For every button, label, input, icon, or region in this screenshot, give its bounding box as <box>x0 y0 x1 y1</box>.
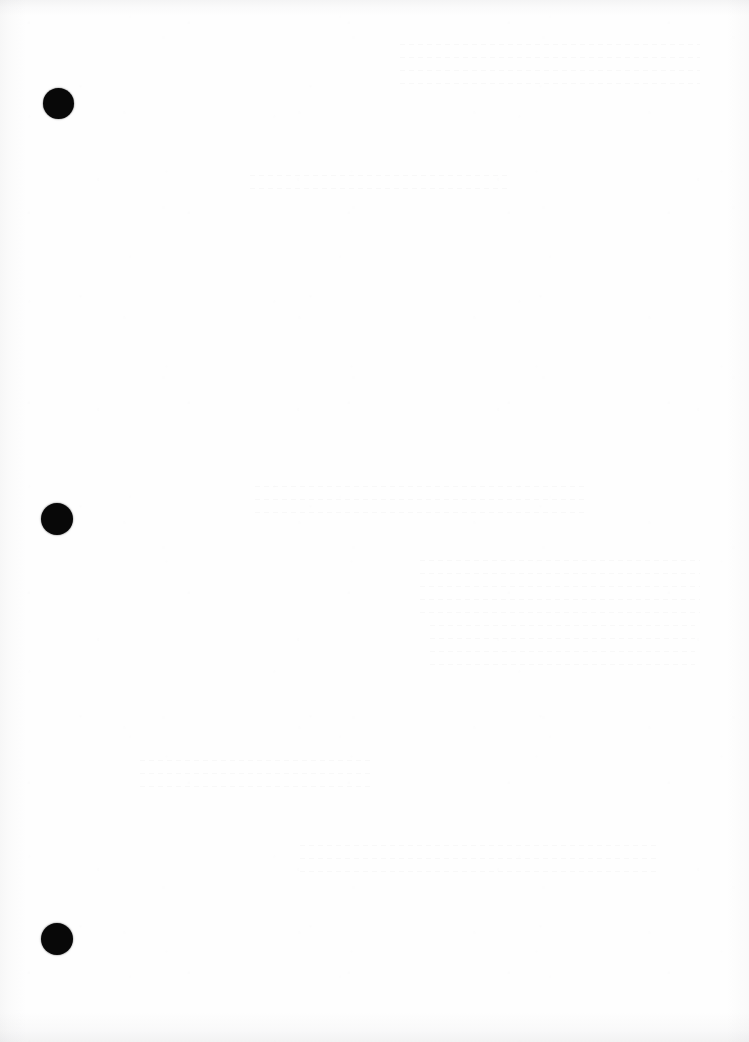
registration-mark-middle <box>41 503 73 535</box>
scanned-page <box>0 0 749 1042</box>
registration-mark-bottom <box>41 923 73 955</box>
paper-surface <box>0 0 749 1042</box>
registration-mark-top <box>43 88 74 119</box>
